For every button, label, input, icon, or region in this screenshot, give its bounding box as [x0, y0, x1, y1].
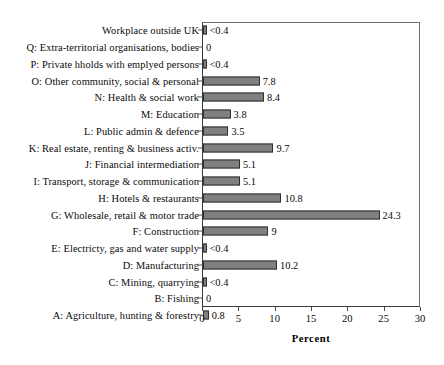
bar: [203, 260, 277, 269]
bar: [203, 93, 264, 102]
x-axis-tick-label: 20: [342, 313, 353, 325]
bar-value-label: <0.4: [210, 243, 229, 254]
category-label: G: Wholesale, retail & motor trade: [51, 209, 199, 220]
category-label: K: Real estate, renting & business activ…: [29, 142, 199, 153]
bar-rows-container: Workplace outside UK<0.4Q: Extra-territo…: [0, 22, 444, 307]
bar-value-label: 24.3: [383, 209, 401, 220]
bar-row: D: Manufacturing10.2: [0, 257, 444, 274]
bar: [203, 59, 207, 68]
bar-row: H: Hotels & restaurants10.8: [0, 190, 444, 207]
x-axis-tick-label: 0: [199, 313, 204, 325]
bar-row: M: Education3.8: [0, 106, 444, 123]
bar: [203, 160, 240, 169]
bar-row: N: Health & social work8.4: [0, 89, 444, 106]
category-label: J: Financial intermediation: [85, 159, 199, 170]
bar-chart: Workplace outside UK<0.4Q: Extra-territo…: [0, 0, 444, 365]
bar-row: I: Transport, storage & communication5.1: [0, 173, 444, 190]
bar: [203, 110, 231, 119]
bar-row: C: Mining, quarrying<0.4: [0, 273, 444, 290]
bar-row: B: Fishing0: [0, 290, 444, 307]
bar-value-label: 3.5: [231, 125, 244, 136]
bar-row: F: Construction9: [0, 223, 444, 240]
category-label: M: Education: [141, 109, 199, 120]
bar-value-label: <0.4: [210, 58, 229, 69]
bar: [203, 210, 380, 219]
x-axis-tick: [311, 307, 312, 311]
bar: [203, 26, 207, 35]
x-axis-tick: [347, 307, 348, 311]
bar-value-label: <0.4: [210, 276, 229, 287]
category-label: D: Manufacturing: [123, 259, 199, 270]
category-label: Workplace outside UK: [102, 25, 199, 36]
bar-value-label: 0: [206, 42, 211, 53]
category-label: F: Construction: [133, 226, 199, 237]
x-axis-title: Percent: [202, 333, 420, 344]
bar-value-label: <0.4: [210, 25, 229, 36]
category-label: A: Agriculture, hunting & forestry: [53, 310, 199, 321]
bar-value-label: 5.1: [243, 159, 256, 170]
category-label: L: Public admin & defence: [84, 125, 199, 136]
category-label: Q: Extra-territorial organisations, bodi…: [26, 42, 199, 53]
category-label: H: Hotels & restaurants: [98, 192, 199, 203]
bar: [203, 227, 268, 236]
category-label: B: Fishing: [154, 293, 199, 304]
bar: [203, 76, 260, 85]
bar: [203, 177, 240, 186]
x-axis-tick: [384, 307, 385, 311]
bar: [203, 277, 207, 286]
bar-value-label: 7.8: [263, 75, 276, 86]
bar-value-label: 10.2: [280, 259, 298, 270]
category-label: I: Transport, storage & communication: [33, 176, 199, 187]
bar-value-label: 3.8: [234, 109, 247, 120]
bar-row: L: Public admin & defence3.5: [0, 123, 444, 140]
x-axis-tick: [202, 307, 203, 311]
bar-row: Q: Extra-territorial organisations, bodi…: [0, 39, 444, 56]
x-axis-tick: [238, 307, 239, 311]
bar-row: O: Other community, social & personal7.8: [0, 72, 444, 89]
x-axis-tick: [420, 307, 421, 311]
bar-row: Workplace outside UK<0.4: [0, 22, 444, 39]
bar-value-label: 10.8: [284, 192, 302, 203]
bar-row: J: Financial intermediation5.1: [0, 156, 444, 173]
x-axis-tick-label: 30: [415, 313, 426, 325]
category-label: P: Private hholds with emplyed persons: [30, 58, 199, 69]
bar: [203, 193, 281, 202]
bar-value-label: 8.4: [267, 92, 280, 103]
category-label: N: Health & social work: [95, 92, 199, 103]
bar: [203, 126, 228, 135]
category-label: E: Electricty, gas and water supply: [51, 243, 199, 254]
bar-row: P: Private hholds with emplyed persons<0…: [0, 56, 444, 73]
x-axis-tick-label: 15: [306, 313, 317, 325]
bar-row: K: Real estate, renting & business activ…: [0, 139, 444, 156]
bar-value-label: 5.1: [243, 176, 256, 187]
bar: [203, 244, 207, 253]
bar-value-label: 9.7: [276, 142, 289, 153]
category-label: O: Other community, social & personal: [31, 75, 199, 86]
x-axis-tick-label: 25: [378, 313, 389, 325]
bar-value-label: 0: [206, 293, 211, 304]
x-axis-tick-label: 10: [269, 313, 280, 325]
x-axis-tick: [275, 307, 276, 311]
x-axis-tick-label: 5: [236, 313, 241, 325]
bar-value-label: 9: [271, 226, 276, 237]
bar: [203, 143, 273, 152]
bar-row: G: Wholesale, retail & motor trade24.3: [0, 206, 444, 223]
category-label: C: Mining, quarrying: [108, 276, 199, 287]
bar-row: E: Electricty, gas and water supply<0.4: [0, 240, 444, 257]
